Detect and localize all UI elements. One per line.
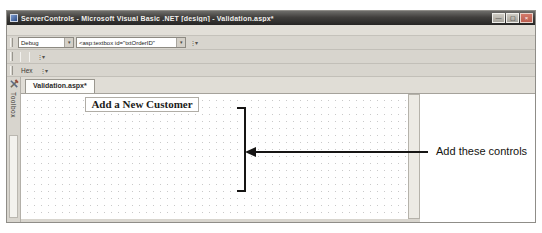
tab-label: Validation.aspx* xyxy=(33,82,87,89)
toolbar-grip[interactable] xyxy=(10,52,13,61)
toolbar-grip[interactable] xyxy=(10,66,13,75)
annotation-label: Add these controls xyxy=(436,145,527,157)
restore-button[interactable]: ▢ xyxy=(506,13,519,23)
tools-icon xyxy=(9,79,19,89)
solution-config-combo[interactable]: Debug ▾ xyxy=(18,37,74,48)
find-combo[interactable]: <asp:textbox id="txtOrderID" ▾ xyxy=(76,37,186,48)
toolbox-tab[interactable]: Toolbox xyxy=(7,77,21,222)
app-window: ServerControls - Microsoft Visual Basic … xyxy=(6,10,536,223)
hex-toggle[interactable]: Hex xyxy=(18,67,36,74)
toolbar-grip[interactable] xyxy=(10,38,13,47)
design-surface[interactable]: Add a New Customer xyxy=(21,94,408,219)
toolbar-overflow-icon[interactable]: ⋮▾ xyxy=(38,67,49,74)
empty-panel-area xyxy=(420,94,535,222)
minimize-button[interactable]: — xyxy=(492,13,505,23)
formatting-toolbar: ⋮▾ xyxy=(7,50,535,64)
config-combo-value: Debug xyxy=(19,40,64,46)
document-tab-strip: Validation.aspx* xyxy=(21,77,535,94)
close-button[interactable]: × xyxy=(520,13,533,23)
standard-toolbar: Debug ▾ <asp:textbox id="txtOrderID" ▾ ⋮… xyxy=(7,36,535,50)
debug-toolbar: Hex ⋮▾ xyxy=(7,64,535,77)
title-bar[interactable]: ServerControls - Microsoft Visual Basic … xyxy=(7,11,535,25)
app-icon xyxy=(10,14,18,22)
designer-scrollbar[interactable] xyxy=(408,94,420,219)
callout-arrow-line xyxy=(255,151,428,153)
toolbar-overflow-icon[interactable]: ⋮▾ xyxy=(35,53,46,60)
window-controls: —▢× xyxy=(492,13,533,23)
toolbox-band xyxy=(9,135,18,218)
menu-bar xyxy=(7,25,535,36)
chevron-down-icon[interactable]: ▾ xyxy=(176,38,185,47)
tab-validation-aspx[interactable]: Validation.aspx* xyxy=(25,79,95,93)
toolbar-overflow-icon[interactable]: ⋮▾ xyxy=(188,39,199,46)
toolbox-tab-label: Toolbox xyxy=(10,92,17,118)
form-heading[interactable]: Add a New Customer xyxy=(85,97,199,112)
find-combo-value: <asp:textbox id="txtOrderID" xyxy=(77,40,176,46)
page-background: ServerControls - Microsoft Visual Basic … xyxy=(0,0,542,233)
chevron-down-icon[interactable]: ▾ xyxy=(64,38,73,47)
window-title: ServerControls - Microsoft Visual Basic … xyxy=(21,15,488,22)
